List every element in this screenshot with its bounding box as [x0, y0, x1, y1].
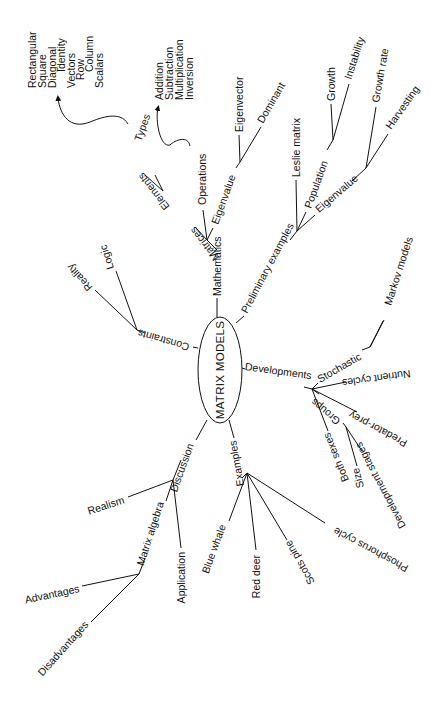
logic-label: Logic — [97, 244, 116, 272]
center-label: MATRIX MODELS — [214, 321, 226, 419]
markov-models-label: Markov models — [381, 235, 414, 306]
branch-discussion: Discussion Realism Matrix algebra Advant… — [24, 420, 207, 678]
svg-text:Scalars: Scalars — [93, 53, 105, 88]
harvesting-label: Harvesting — [383, 83, 422, 131]
dominant-label: Dominant — [254, 80, 287, 125]
branch-mathematics: Mathematics Matrices Elements Types Rect… — [26, 31, 287, 317]
reality-label: Reality — [64, 261, 95, 293]
types-list: Rectangular Square Diagonal Identity Vec… — [26, 31, 105, 88]
mind-map-svg: MATRIX MODELS Mathematics Matrices Eleme… — [0, 0, 440, 719]
examples-label: Examples — [226, 440, 246, 487]
eigenvector-label: Eigenvector — [233, 76, 245, 132]
matrix-algebra-label: Matrix algebra — [134, 500, 166, 567]
advantages-label: Advantages — [24, 582, 81, 605]
math-eigenvalue-label: Eigenvalue — [209, 173, 238, 226]
size-label: Size — [349, 467, 366, 490]
realism-label: Realism — [86, 493, 126, 516]
growth-rate-label: Growth rate — [369, 47, 390, 103]
elements-label: Elements — [135, 171, 171, 213]
branch-constraints: Constraints Reality Logic — [64, 244, 198, 354]
phosphorus-cycle-label: Phosphorus cycle — [331, 525, 410, 575]
application-label: Application — [175, 552, 187, 604]
types-label: Types — [132, 112, 153, 142]
mind-map: MATRIX MODELS Mathematics Matrices Eleme… — [0, 0, 440, 719]
disadvantages-label: Disadvantages — [35, 618, 90, 678]
instability-label: Instability — [341, 35, 366, 81]
center-node: MATRIX MODELS — [198, 317, 242, 423]
blue-whale-label: Blue whale — [199, 522, 228, 575]
nutrient-cycles-label: Nutrient cycles — [342, 368, 412, 389]
preliminary-examples-label: Preliminary examples — [238, 221, 296, 315]
svg-text:Inversion: Inversion — [183, 57, 195, 100]
leslie-matrix-label: Leslie matrix — [290, 117, 302, 177]
branch-examples: Examples Blue whale Red deer Scots pine … — [199, 420, 410, 598]
operations-list: Addition Subtraction Multiplication Inve… — [153, 39, 195, 100]
both-sexes-label: Both sexes — [320, 431, 351, 484]
scots-pine-label: Scots pine — [282, 538, 317, 587]
developments-label: Developments — [244, 360, 312, 381]
red-deer-label: Red deer — [250, 555, 262, 599]
mathematics-label: Mathematics — [211, 236, 223, 296]
predator-prey-label: Predator-prey — [346, 409, 409, 450]
operations-label: Operations — [196, 154, 208, 205]
growth-label: Growth — [325, 67, 337, 101]
constraints-label: Constraints — [136, 327, 190, 353]
